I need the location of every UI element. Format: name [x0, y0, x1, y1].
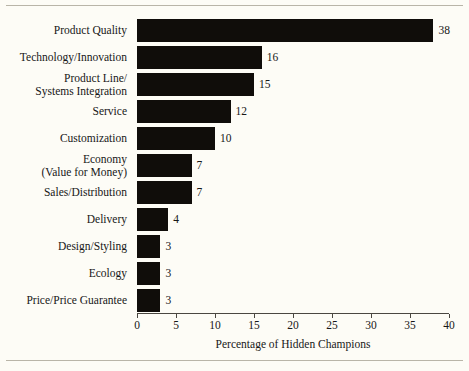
bar-value-label: 12	[236, 106, 248, 118]
bar-wrapper: 3	[137, 233, 171, 260]
bar-chart-figure: Percentage of Hidden Champions Product Q…	[0, 0, 469, 371]
bar-value-label: 16	[267, 52, 279, 64]
bar	[137, 73, 254, 96]
category-label: Service	[0, 98, 131, 125]
bar-row: Sales/Distribution7	[0, 179, 469, 206]
bar-value-label: 3	[165, 268, 171, 280]
category-label: Design/Styling	[0, 233, 131, 260]
plot-area: Percentage of Hidden Champions Product Q…	[0, 0, 469, 371]
bar-value-label: 15	[259, 79, 271, 91]
bar-row: Customization10	[0, 125, 469, 152]
bar-value-label: 3	[165, 295, 171, 307]
bar-value-label: 38	[438, 25, 450, 37]
category-label-line: Product Line/	[64, 72, 127, 85]
category-label-line: (Value for Money)	[41, 166, 127, 179]
x-axis-tick	[176, 314, 177, 318]
category-label-line: Delivery	[87, 213, 127, 226]
bar	[137, 19, 433, 42]
bar	[137, 100, 231, 123]
x-axis-tick-label: 5	[173, 319, 179, 331]
category-label: Ecology	[0, 260, 131, 287]
x-axis-tick	[371, 314, 372, 318]
category-label: Customization	[0, 125, 131, 152]
x-axis-tick-label: 40	[443, 319, 455, 331]
x-axis-tick	[410, 314, 411, 318]
bar	[137, 154, 192, 177]
category-label-line: Sales/Distribution	[44, 186, 127, 199]
bar-row: Technology/Innovation16	[0, 44, 469, 71]
bar-value-label: 7	[197, 160, 203, 172]
x-axis-tick	[137, 314, 138, 318]
bar	[137, 235, 160, 258]
category-label-line: Product Quality	[54, 24, 127, 37]
x-axis-tick	[254, 314, 255, 318]
x-axis-tick	[215, 314, 216, 318]
bar	[137, 208, 168, 231]
category-label: Product Quality	[0, 17, 131, 44]
bar-row: Product Quality38	[0, 17, 469, 44]
bar	[137, 289, 160, 312]
bar-wrapper: 10	[137, 125, 232, 152]
category-label: Technology/Innovation	[0, 44, 131, 71]
x-axis-tick-label: 15	[248, 319, 260, 331]
bar-value-label: 10	[220, 133, 232, 145]
bar	[137, 181, 192, 204]
bar-row: Product Line/Systems Integration15	[0, 71, 469, 98]
x-axis-tick	[293, 314, 294, 318]
bar-wrapper: 38	[137, 17, 450, 44]
bar-wrapper: 12	[137, 98, 247, 125]
category-label-line: Ecology	[89, 267, 127, 280]
x-axis-tick	[449, 314, 450, 318]
bar-wrapper: 3	[137, 260, 171, 287]
category-label-line: Design/Styling	[58, 240, 127, 253]
bar-value-label: 3	[165, 241, 171, 253]
bar-wrapper: 15	[137, 71, 271, 98]
bar-value-label: 4	[173, 214, 179, 226]
category-label-line: Systems Integration	[35, 85, 127, 98]
bar-row: Ecology3	[0, 260, 469, 287]
bar-row: Price/Price Guarantee3	[0, 287, 469, 314]
bar-row: Economy(Value for Money)7	[0, 152, 469, 179]
category-label-line: Customization	[60, 132, 127, 145]
category-label-line: Technology/Innovation	[20, 51, 127, 64]
bar	[137, 262, 160, 285]
category-label-line: Price/Price Guarantee	[26, 294, 127, 307]
bar-row: Design/Styling3	[0, 233, 469, 260]
x-axis-tick-label: 30	[365, 319, 377, 331]
x-axis-tick-label: 25	[326, 319, 338, 331]
category-label: Price/Price Guarantee	[0, 287, 131, 314]
category-label: Sales/Distribution	[0, 179, 131, 206]
x-axis-tick-label: 35	[404, 319, 416, 331]
bar	[137, 127, 215, 150]
category-label: Product Line/Systems Integration	[0, 71, 131, 98]
bar-wrapper: 7	[137, 179, 202, 206]
category-label-line: Service	[93, 105, 127, 118]
bar-row: Delivery4	[0, 206, 469, 233]
category-label: Economy(Value for Money)	[0, 152, 131, 179]
bar	[137, 46, 262, 69]
bar-wrapper: 7	[137, 152, 202, 179]
bar-value-label: 7	[197, 187, 203, 199]
category-label-line: Economy	[83, 153, 127, 166]
x-axis-tick-label: 0	[134, 319, 140, 331]
bar-wrapper: 4	[137, 206, 179, 233]
category-label: Delivery	[0, 206, 131, 233]
x-axis-tick-label: 10	[209, 319, 221, 331]
x-axis-tick-label: 20	[287, 319, 299, 331]
bar-row: Service12	[0, 98, 469, 125]
bar-wrapper: 16	[137, 44, 278, 71]
bar-wrapper: 3	[137, 287, 171, 314]
x-axis-tick	[332, 314, 333, 318]
x-axis-title: Percentage of Hidden Champions	[137, 338, 449, 350]
